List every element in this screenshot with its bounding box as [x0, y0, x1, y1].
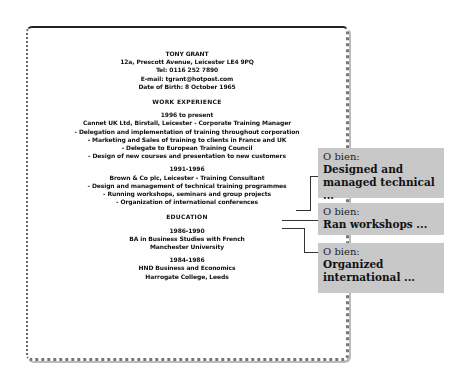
job1-duty: - Delegation and implementation of train… [28, 128, 346, 136]
edu1-school: Manchester University [28, 243, 346, 251]
job2-duty: - Design and management of technical tra… [28, 182, 346, 190]
connector-line [296, 210, 310, 211]
cv-page: TONY GRANT 12a, Prescott Avenue, Leicest… [26, 26, 349, 361]
cv-tel: Tel: 0116 252 7890 [28, 66, 346, 74]
callout-text: Designed and managed technical ... [323, 163, 439, 202]
connector-line [282, 220, 318, 221]
cv-email: E-mail: tgrant@hotpost.com [28, 75, 346, 83]
edu2-school: Harrogate College, Leeds [28, 273, 346, 281]
callout-text: Ran workshops ... [323, 218, 439, 231]
connector-line [304, 228, 305, 252]
cv-dob: Date of Birth: 8 October 1965 [28, 83, 346, 91]
callout-prefix: O bien: [323, 151, 439, 163]
job2-title: Brown & Co plc, Leicester - Training Con… [28, 174, 346, 182]
job2-duty: - Running workshops, seminars and group … [28, 190, 346, 198]
job1-dates: 1996 to present [28, 111, 346, 119]
connector-line [304, 252, 318, 253]
connector-line [310, 176, 318, 177]
connector-line [282, 228, 304, 229]
callout-prefix: O bien: [323, 206, 439, 218]
edu1-degree: BA in Business Studies with French [28, 235, 346, 243]
cv-content: TONY GRANT 12a, Prescott Avenue, Leicest… [28, 50, 346, 281]
cv-address: 12a, Prescott Avenue, Leicester LE4 9PQ [28, 58, 346, 66]
cv-name: TONY GRANT [28, 50, 346, 58]
connector-line [310, 176, 311, 211]
work-heading: WORK EXPERIENCE [28, 98, 346, 106]
callout-text: Organized international ... [323, 258, 439, 284]
callout-organized: O bien: Organized international ... [318, 243, 444, 293]
job2-dates: 1991-1996 [28, 165, 346, 173]
job1-duty: - Design of new courses and presentation… [28, 152, 346, 160]
edu2-dates: 1984-1986 [28, 256, 346, 264]
job1-duty: - Delegate to European Training Council [28, 144, 346, 152]
callout-prefix: O bien: [323, 246, 439, 258]
job1-duty: - Marketing and Sales of training to cli… [28, 136, 346, 144]
job2-duty: - Organization of international conferen… [28, 198, 346, 206]
job1-title: Cannet UK Ltd, Birstall, Leicester - Cor… [28, 119, 346, 127]
callout-designed: O bien: Designed and managed technical .… [318, 148, 444, 198]
callout-ran-workshops: O bien: Ran workshops ... [318, 203, 444, 235]
edu2-degree: HND Business and Economics [28, 264, 346, 272]
